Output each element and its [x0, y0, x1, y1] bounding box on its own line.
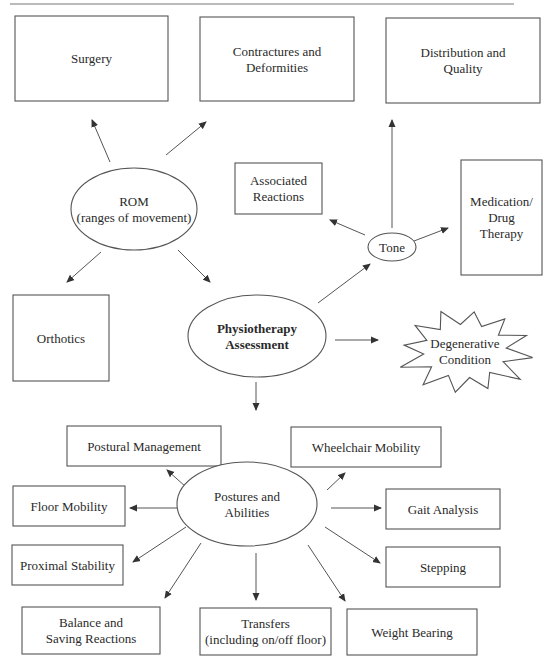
- medication-label-line: Therapy: [480, 226, 524, 241]
- node-transfers: Transfers(including on/off floor): [200, 608, 331, 655]
- node-medication: Medication/DrugTherapy: [461, 160, 542, 275]
- associated-label-line: Associated: [250, 173, 308, 188]
- surgery-label-line: Surgery: [71, 51, 112, 66]
- proximal-label-line: Proximal Stability: [20, 558, 115, 573]
- transfers-label-line: (including on/off floor): [205, 632, 326, 647]
- arrow-postures-to-wheelchair: [327, 473, 345, 490]
- arrow-postures-to-proximal: [133, 527, 186, 562]
- node-gait: Gait Analysis: [386, 489, 500, 529]
- arrow-tone-to-medication: [414, 228, 448, 241]
- arrow-physio-to-tone: [318, 264, 370, 303]
- physio-label-line: Assessment: [225, 337, 289, 352]
- node-weight: Weight Bearing: [347, 609, 477, 655]
- medication-label-line: Drug: [488, 210, 515, 225]
- nodes-layer: SurgeryContractures andDeformitiesDistri…: [12, 16, 542, 655]
- arrow-postures-to-stepping: [325, 527, 380, 563]
- arrow-rom-to-surgery: [92, 120, 110, 162]
- contractures-label-line: Contractures and: [233, 44, 322, 59]
- node-stepping: Stepping: [386, 547, 500, 587]
- arrow-postures-to-postural: [167, 470, 186, 487]
- orthotics-label-line: Orthotics: [37, 331, 85, 346]
- node-floor: Floor Mobility: [13, 486, 125, 526]
- mind-map-diagram: SurgeryContractures andDeformitiesDistri…: [0, 0, 554, 667]
- node-postural: Postural Management: [67, 426, 221, 466]
- tone-label-line: Tone: [379, 240, 405, 255]
- weight-label-line: Weight Bearing: [371, 625, 453, 640]
- node-surgery: Surgery: [15, 16, 168, 101]
- postures-label-line: Abilities: [225, 505, 270, 520]
- degenerative-label-line: Condition: [439, 352, 492, 367]
- balance-label-line: Saving Reactions: [46, 631, 137, 646]
- degenerative-label-line: Degenerative: [430, 336, 500, 351]
- node-rom: ROM(ranges of movement): [71, 168, 197, 250]
- wheelchair-label-line: Wheelchair Mobility: [312, 440, 421, 455]
- node-wheelchair: Wheelchair Mobility: [291, 427, 441, 467]
- node-proximal: Proximal Stability: [12, 545, 123, 585]
- node-postures: Postures andAbilities: [177, 462, 317, 546]
- transfers-label-line: Transfers: [241, 616, 290, 631]
- distribution-label-line: Distribution and: [421, 45, 506, 60]
- node-orthotics: Orthotics: [13, 295, 109, 381]
- contractures-label-line: Deformities: [246, 60, 308, 75]
- rom-label-line: ROM: [119, 194, 149, 209]
- node-physio: PhysiotherapyAssessment: [188, 295, 326, 377]
- medication-label-line: Medication/: [470, 194, 533, 209]
- balance-label-line: Balance and: [59, 615, 123, 630]
- arrow-rom-to-contractures: [166, 122, 206, 155]
- arrow-postures-to-weight: [308, 545, 345, 601]
- arrow-rom-to-orthotics: [67, 252, 101, 282]
- node-associated: AssociatedReactions: [235, 163, 322, 214]
- node-contractures: Contractures andDeformities: [200, 17, 354, 101]
- physio-label-line: Physiotherapy: [217, 321, 298, 336]
- postures-label-line: Postures and: [214, 489, 281, 504]
- floor-label-line: Floor Mobility: [31, 499, 108, 514]
- node-distribution: Distribution andQuality: [386, 18, 540, 103]
- stepping-label-line: Stepping: [420, 560, 467, 575]
- rom-label-line: (ranges of movement): [77, 210, 192, 225]
- gait-label-line: Gait Analysis: [408, 502, 478, 517]
- node-balance: Balance andSaving Reactions: [22, 607, 160, 654]
- associated-label-line: Reactions: [253, 189, 304, 204]
- arrow-postures-to-balance: [165, 543, 201, 598]
- node-degenerative: DegenerativeCondition: [400, 312, 532, 393]
- node-tone: Tone: [368, 233, 416, 261]
- arrow-tone-to-associated: [330, 220, 365, 235]
- postural-label-line: Postural Management: [87, 439, 201, 454]
- arrow-rom-to-physio: [178, 250, 210, 282]
- distribution-label-line: Quality: [444, 61, 483, 76]
